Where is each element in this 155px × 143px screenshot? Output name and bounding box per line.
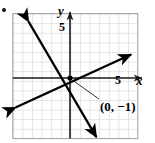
x-axis-tick-label-5: 5 [115,74,121,86]
coordinate-graph [0,0,155,143]
y-axis-tick-label-5: 5 [59,21,65,33]
figure-panel: y x 5 5 (0, −1) [0,0,155,143]
origin-marker [67,75,72,80]
y-axis-label: y [58,4,64,17]
point-annotation-label: (0, −1) [100,100,136,113]
x-axis-label: x [136,74,143,87]
